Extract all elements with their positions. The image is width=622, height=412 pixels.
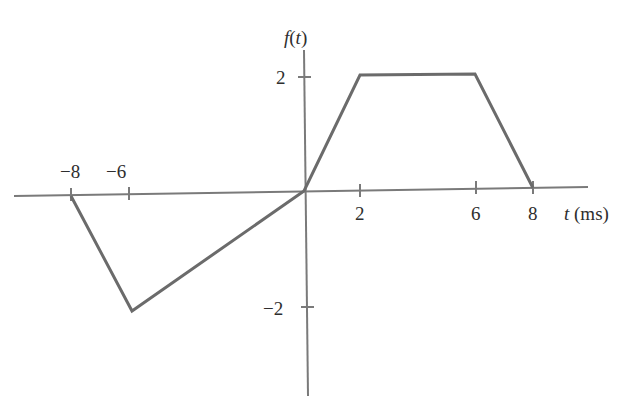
y-tick-label: −2 bbox=[263, 298, 283, 319]
x-tick-label: 6 bbox=[471, 203, 481, 224]
x-tick-label: 8 bbox=[528, 203, 538, 224]
x-tick-label: −6 bbox=[106, 161, 126, 182]
y-tick-label: 2 bbox=[276, 67, 286, 88]
x-axis-label: t (ms) bbox=[564, 203, 609, 225]
x-tick-label: −8 bbox=[60, 161, 80, 182]
y-axis bbox=[304, 50, 308, 396]
chart-svg: −8 −6 2 6 8 2 −2 f(t) t (ms) bbox=[0, 0, 622, 412]
x-tick-label: 2 bbox=[355, 203, 365, 224]
series-line-f-of-t bbox=[71, 74, 533, 311]
y-axis-label: f(t) bbox=[284, 27, 307, 49]
chart-canvas: −8 −6 2 6 8 2 −2 f(t) t (ms) bbox=[0, 0, 622, 412]
